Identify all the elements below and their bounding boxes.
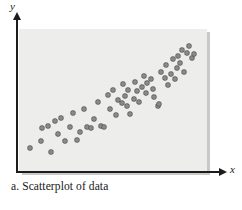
y-axis-line <box>16 18 18 173</box>
scatter-point <box>114 113 118 117</box>
scatter-point <box>178 61 182 65</box>
scatter-point <box>111 88 115 92</box>
scatter-point <box>63 139 67 143</box>
scatter-point <box>159 70 163 74</box>
scatter-point <box>106 93 110 97</box>
scatter-point <box>190 56 194 60</box>
scatter-point <box>78 130 82 134</box>
scatter-point <box>39 139 43 143</box>
scatter-point <box>135 89 139 93</box>
scatter-point <box>128 112 132 116</box>
scatter-point <box>187 44 191 48</box>
scatter-point <box>142 74 146 78</box>
scatter-point <box>121 82 125 86</box>
plot-panel <box>19 29 207 172</box>
scatter-point <box>102 125 106 129</box>
scatterplot-figure: y x a. Scatterplot of data <box>0 0 242 210</box>
scatter-point <box>53 119 57 123</box>
y-axis-arrow-icon <box>13 12 21 20</box>
scatter-point <box>166 83 170 87</box>
scatter-point <box>120 101 124 105</box>
scatter-point <box>180 48 184 52</box>
scatter-point <box>56 132 60 136</box>
scatter-point <box>28 146 32 150</box>
scatter-point <box>149 77 153 81</box>
scatter-point <box>75 138 79 142</box>
scatter-point <box>144 91 148 95</box>
scatter-point <box>46 124 50 128</box>
scatter-point <box>173 77 177 81</box>
scatter-point <box>176 54 180 58</box>
scatter-point <box>82 107 86 111</box>
x-axis-line <box>16 171 221 173</box>
scatter-point <box>71 111 75 115</box>
scatter-point <box>169 72 173 76</box>
scatter-point <box>185 51 189 55</box>
scatter-point <box>59 116 63 120</box>
scatter-point <box>151 87 155 91</box>
scatter-point <box>137 100 141 104</box>
scatter-point <box>175 66 179 70</box>
scatter-point <box>171 57 175 61</box>
scatter-point <box>140 85 144 89</box>
scatter-point <box>126 88 130 92</box>
scatter-point <box>68 125 72 129</box>
scatter-point <box>157 102 161 106</box>
scatter-point <box>152 95 156 99</box>
scatter-point <box>89 126 93 130</box>
y-axis-label: y <box>10 1 15 12</box>
scatter-point <box>92 117 96 121</box>
scatter-point <box>192 52 196 56</box>
scatter-point <box>182 70 186 74</box>
scatter-point <box>163 76 167 80</box>
scatter-point <box>108 107 112 111</box>
x-axis-label: x <box>230 164 235 175</box>
x-axis-arrow-icon <box>219 168 227 176</box>
scatter-point <box>133 80 137 84</box>
scatter-point <box>123 94 127 98</box>
scatter-point <box>49 150 53 154</box>
scatter-point <box>132 97 136 101</box>
scatter-point <box>125 104 129 108</box>
scatter-point <box>96 100 100 104</box>
figure-caption: a. Scatterplot of data <box>11 180 108 192</box>
scatter-point <box>164 63 168 67</box>
scatter-point <box>40 126 44 130</box>
scatter-point <box>145 81 149 85</box>
